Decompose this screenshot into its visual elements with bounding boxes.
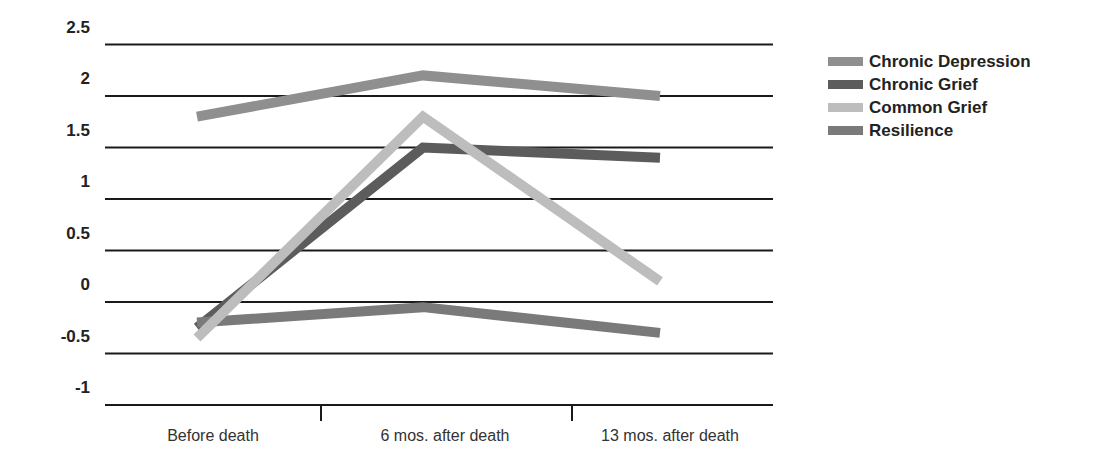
legend: Chronic Depression Chronic Grief Common … xyxy=(828,50,1031,142)
legend-item-chronic-grief: Chronic Grief xyxy=(828,73,1031,96)
x-category-label: 13 mos. after death xyxy=(555,426,785,446)
series-line-resilience xyxy=(197,307,660,333)
legend-item-common-grief: Common Grief xyxy=(828,96,1031,119)
legend-swatch xyxy=(828,80,863,89)
x-category-label: 6 mos. after death xyxy=(330,426,560,446)
y-tick-label: -1 xyxy=(0,378,90,398)
legend-swatch xyxy=(828,126,863,135)
y-tick-label: 0.5 xyxy=(0,224,90,244)
y-tick-label: 1 xyxy=(0,172,90,192)
y-tick-label: 0 xyxy=(0,275,90,295)
legend-swatch xyxy=(828,103,863,112)
legend-item-chronic-depression: Chronic Depression xyxy=(828,50,1031,73)
legend-label: Chronic Depression xyxy=(869,52,1031,72)
y-tick-label: 2 xyxy=(0,69,90,89)
y-tick-label: 1.5 xyxy=(0,121,90,141)
y-tick-label: -0.5 xyxy=(0,327,90,347)
legend-swatch xyxy=(828,57,863,66)
legend-item-resilience: Resilience xyxy=(828,119,1031,142)
x-category-label: Before death xyxy=(98,426,328,446)
legend-label: Common Grief xyxy=(869,98,987,118)
legend-label: Resilience xyxy=(869,121,953,141)
y-tick-label: 2.5 xyxy=(0,18,90,38)
legend-label: Chronic Grief xyxy=(869,75,978,95)
line-chart: 2.521.510.50-0.5-1 Before death6 mos. af… xyxy=(0,0,1109,463)
